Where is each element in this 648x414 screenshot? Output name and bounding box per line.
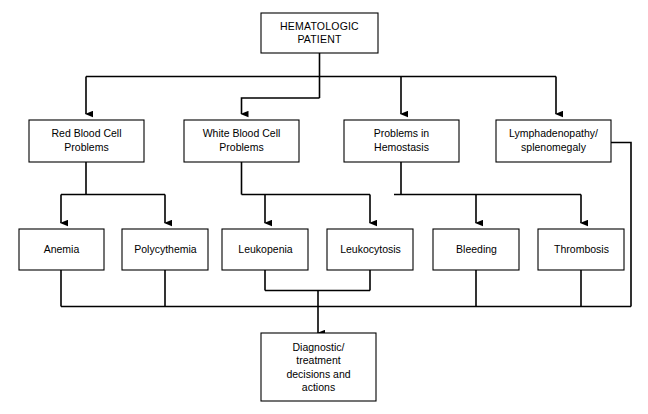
node-lymphadenopathy-splenomegaly[interactable]: Lymphadenopathy/ splenomegaly [496, 120, 611, 162]
node-problems-in-hemostasis[interactable]: Problems in Hemostasis [344, 120, 459, 162]
node-leukocytosis-label: Leukocytosis [340, 243, 401, 255]
node-diagnostic-treatment-line4: actions [302, 381, 335, 393]
node-thrombosis[interactable]: Thrombosis [538, 229, 624, 270]
node-diagnostic-treatment-line3: decisions and [286, 368, 350, 380]
flowchart-canvas: HEMATOLOGIC PATIENT Red Blood Cell Probl… [0, 0, 648, 414]
node-red-blood-cell-problems-line1: Red Blood Cell [51, 127, 121, 139]
node-white-blood-cell-problems-line1: White Blood Cell [203, 127, 281, 139]
node-anemia-label: Anemia [44, 243, 80, 255]
edge-group-rbc-children [61, 162, 165, 223]
node-red-blood-cell-problems[interactable]: Red Blood Cell Problems [29, 120, 144, 162]
node-hematologic-patient-line1: HEMATOLOGIC [280, 20, 359, 32]
edge-group-wbc-children [242, 162, 371, 223]
node-anemia[interactable]: Anemia [19, 229, 104, 270]
node-leukocytosis[interactable]: Leukocytosis [327, 229, 413, 270]
node-diagnostic-treatment-decisions[interactable]: Diagnostic/ treatment decisions and acti… [261, 333, 376, 401]
edge-root-to-wbc [242, 98, 320, 114]
node-polycythemia-label: Polycythemia [134, 243, 197, 255]
node-polycythemia[interactable]: Polycythemia [122, 229, 208, 270]
node-leukopenia[interactable]: Leukopenia [222, 229, 308, 270]
node-leukopenia-label: Leukopenia [238, 243, 292, 255]
node-diagnostic-treatment-line2: treatment [296, 354, 340, 366]
node-thrombosis-label: Thrombosis [554, 243, 609, 255]
edge-group-hemostasis-children [394, 162, 581, 223]
node-problems-in-hemostasis-line2: Hemostasis [374, 141, 429, 153]
node-bleeding-label: Bleeding [456, 243, 497, 255]
node-diagnostic-treatment-line1: Diagnostic/ [293, 341, 345, 353]
node-lymphadenopathy-splenomegaly-line1: Lymphadenopathy/ [509, 127, 598, 139]
node-white-blood-cell-problems[interactable]: White Blood Cell Problems [184, 120, 299, 162]
node-hematologic-patient-line2: PATIENT [297, 33, 342, 45]
node-bleeding[interactable]: Bleeding [433, 229, 519, 270]
edge-group-root-to-level2 [86, 53, 556, 114]
edge-lymphadenopathy-bypass [611, 143, 631, 307]
node-white-blood-cell-problems-line2: Problems [219, 141, 263, 153]
flowchart-svg: HEMATOLOGIC PATIENT Red Blood Cell Probl… [0, 0, 648, 414]
node-lymphadenopathy-splenomegaly-line2: splenomegaly [521, 141, 587, 153]
node-hematologic-patient[interactable]: HEMATOLOGIC PATIENT [261, 13, 378, 53]
node-problems-in-hemostasis-line1: Problems in [374, 127, 430, 139]
node-red-blood-cell-problems-line2: Problems [64, 141, 108, 153]
